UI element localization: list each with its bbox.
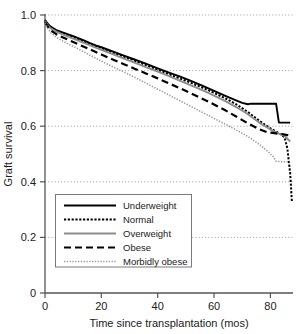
x-tick-labels: 0 20 40 60 80 xyxy=(42,300,277,312)
legend-label-normal: Normal xyxy=(123,214,154,225)
y-tick-label: 0.2 xyxy=(21,231,36,243)
y-tick-label: 1.0 xyxy=(21,9,36,21)
y-tick-labels: 1.0 0.8 0.6 0.4 0.2 0 xyxy=(21,9,36,299)
legend-label-obese: Obese xyxy=(123,242,151,253)
y-tick-label: 0 xyxy=(30,287,36,299)
x-tick-label: 20 xyxy=(95,300,107,312)
x-tick-label: 40 xyxy=(152,300,164,312)
x-tick-label: 60 xyxy=(208,300,220,312)
legend-label-underweight: Underweight xyxy=(123,200,177,211)
x-axis-title: Time since transplantation (mos) xyxy=(89,317,248,329)
x-tick-label: 0 xyxy=(42,300,48,312)
legend-label-overweight: Overweight xyxy=(123,228,171,239)
y-tick-label: 0.8 xyxy=(21,65,36,77)
legend: Underweight Normal Overweight Obese Morb… xyxy=(56,195,192,268)
x-tick-label: 80 xyxy=(264,300,276,312)
series-layer xyxy=(45,20,292,201)
y-axis-title: Graft survival xyxy=(2,122,14,187)
series-line-underweight xyxy=(45,20,290,123)
y-tick-label: 0.4 xyxy=(21,176,36,188)
kaplan-meier-chart: 1.0 0.8 0.6 0.4 0.2 0 0 20 40 60 80 Time… xyxy=(0,0,304,334)
legend-label-morbidly-obese: Morbidly obese xyxy=(123,256,187,267)
series-line-morbidly-obese xyxy=(45,23,290,162)
series-line-normal xyxy=(45,21,292,202)
graft-survival-figure: 1.0 0.8 0.6 0.4 0.2 0 0 20 40 60 80 Time… xyxy=(0,0,304,334)
y-tick-label: 0.6 xyxy=(21,120,36,132)
